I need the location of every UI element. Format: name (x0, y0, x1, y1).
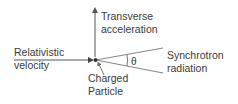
velocity-label-line2: velocity (14, 59, 64, 72)
velocity-label: Relativistic velocity (14, 46, 64, 72)
radiation-line-upper (96, 48, 163, 60)
acceleration-label: Transverse acceleration (101, 10, 158, 36)
particle-label-line2: Particle (88, 85, 128, 98)
particle-label: Charged Particle (88, 72, 128, 98)
acceleration-label-line2: acceleration (101, 23, 158, 36)
acceleration-label-line1: Transverse (101, 10, 158, 23)
angle-theta-label: θ (131, 55, 137, 68)
radiation-label-line1: Synchrotron (167, 49, 224, 62)
radiation-label: Synchrotron radiation (167, 49, 224, 75)
velocity-arrowhead-icon (88, 57, 94, 63)
radiation-label-line2: radiation (167, 62, 224, 75)
velocity-label-line1: Relativistic (14, 46, 64, 59)
angle-arc (127, 55, 128, 67)
synchrotron-diagram: Relativistic velocity Transverse acceler… (0, 0, 238, 104)
charged-particle-dot (94, 58, 98, 62)
particle-label-line1: Charged (88, 72, 128, 85)
